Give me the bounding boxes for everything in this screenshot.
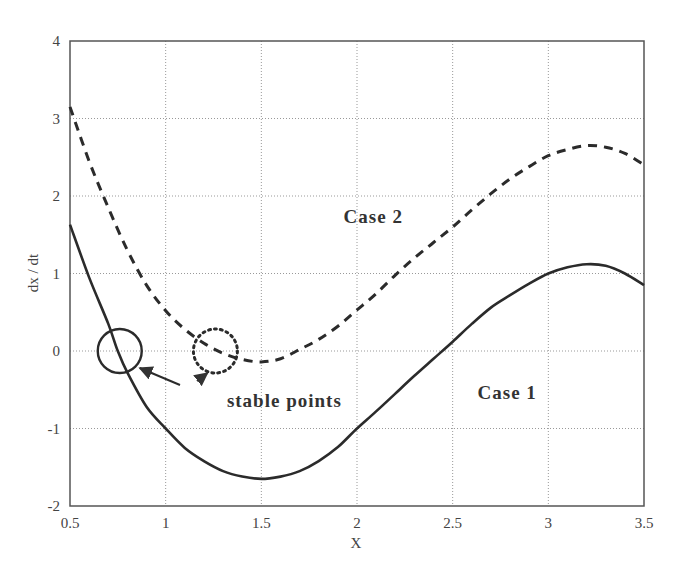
x-tick-label: 3.5 (635, 515, 654, 531)
chart: 0.511.522.533.5 -2-101234 Case 2 Case 1 … (0, 0, 679, 572)
x-axis-label: X (351, 535, 362, 551)
x-tick-label: 1.5 (252, 515, 271, 531)
y-tick-label: -2 (48, 498, 61, 514)
arrow-to-case-2-point (197, 373, 207, 381)
x-tick-label: 3 (545, 515, 553, 531)
y-tick-label: 3 (53, 111, 61, 127)
y-tick-label: 4 (53, 33, 61, 49)
y-tick-label: 0 (53, 343, 61, 359)
y-axis-label: dx / dt (25, 253, 41, 292)
x-tick-label: 2 (353, 515, 361, 531)
y-tick-label: 1 (53, 266, 61, 282)
x-tick-label: 1 (162, 515, 170, 531)
x-tick-label: 2.5 (443, 515, 462, 531)
case-2-label: Case 2 (344, 206, 403, 227)
grid-lines (70, 41, 644, 506)
y-tick-labels: -2-101234 (48, 33, 61, 514)
x-tick-label: 0.5 (61, 515, 80, 531)
x-tick-labels: 0.511.522.533.5 (61, 515, 654, 531)
stable-point-circle-case-1 (98, 329, 142, 373)
y-tick-label: -1 (48, 421, 61, 437)
stable-points-label: stable points (227, 390, 342, 411)
y-tick-label: 2 (53, 188, 61, 204)
arrow-to-case-1-point (140, 368, 180, 385)
case-1-label: Case 1 (478, 382, 537, 403)
